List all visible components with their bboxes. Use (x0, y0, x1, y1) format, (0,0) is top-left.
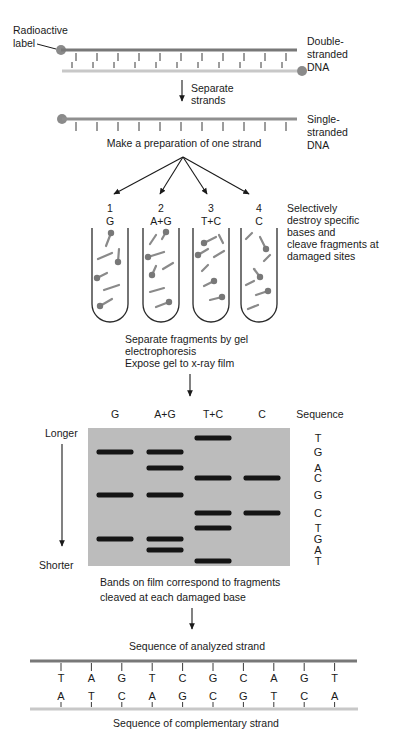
dna-fragment (98, 253, 112, 259)
single-stranded-dna-label-line2: stranded (307, 126, 348, 138)
gel-caption-line2: cleaved at each damaged base (100, 591, 246, 603)
make-preparation-label: Make a preparation of one strand (107, 137, 262, 149)
complementary-base: C (209, 690, 217, 702)
gel-sequence-letter: G (314, 489, 323, 501)
gel-band (97, 493, 134, 498)
fan-arrow-4 (183, 157, 249, 194)
tube-number: 4 (256, 202, 262, 214)
fan-arrow-3 (183, 157, 207, 194)
tube-base-label: A+G (150, 215, 171, 227)
fragment-label-dot (94, 275, 100, 281)
analyzed-base: A (88, 672, 96, 684)
double-strand-ticks (72, 53, 286, 68)
fragment-label-dot (163, 229, 169, 235)
fragment-label-dot (149, 272, 155, 278)
fragment-label-dot (115, 259, 121, 265)
dna-fragment (246, 281, 254, 285)
complementary-base: G (239, 690, 248, 702)
tube-number: 2 (158, 202, 164, 214)
electrophoresis-note-line1: Separate fragments by gel (125, 333, 248, 345)
gel-band (97, 450, 134, 455)
analyzed-base: A (270, 672, 278, 684)
fragment-label-dot (257, 274, 263, 280)
fragment-label-dot (97, 303, 103, 309)
analyzed-base: G (118, 672, 127, 684)
fragment-label-dot (265, 288, 271, 294)
dna-fragment (248, 305, 258, 309)
fragment-label-dot (211, 278, 217, 284)
tube-base-label: C (255, 215, 263, 227)
gel-sequence-letter: T (315, 432, 322, 444)
gel-longer-label: Longer (45, 427, 78, 439)
gel-lane-header: G (111, 408, 119, 420)
gel-sequence-header: Sequence (296, 408, 343, 420)
analyzed-base: T (331, 672, 338, 684)
diagram-root: Radioactive label Double- stranded DNA S… (0, 0, 395, 738)
gel-sequence-letter: C (314, 472, 322, 484)
gel-sequence-letter: C (314, 507, 322, 519)
complementary-base: C (118, 690, 126, 702)
fragment-label-dot (263, 246, 269, 252)
cleavage-note-line4: cleave fragments at (287, 238, 379, 250)
gel-sequence-letter: G (314, 446, 323, 458)
gel-band (244, 476, 281, 481)
tube-base-label: G (106, 215, 114, 227)
single-strand-ticks (76, 122, 286, 131)
complementary-base: C (300, 690, 308, 702)
gel-sequence-letter: T (315, 555, 322, 567)
complementary-base: A (149, 690, 157, 702)
gel-band (147, 450, 184, 455)
fan-arrow-1 (114, 157, 183, 194)
radioactive-label-line2: label (13, 37, 35, 49)
cleavage-note-line2: destroy specific (287, 214, 359, 226)
analyzed-base: C (179, 672, 187, 684)
dna-fragment (219, 235, 223, 243)
complementary-base: T (270, 690, 277, 702)
gel-caption-line1: Bands on film correspond to fragments (100, 576, 280, 588)
maxam-gilbert-sequencing-diagram: Radioactive label Double- stranded DNA S… (0, 0, 395, 738)
tube-number: 3 (208, 202, 214, 214)
gel-lane-header: A+G (154, 408, 175, 420)
gel-band (195, 559, 232, 564)
radioactive-label-leader-line (37, 44, 56, 49)
dna-fragment (104, 285, 119, 290)
dna-fragment (214, 251, 224, 257)
result-base-pairs: TAATGCTACGGCCGATGCTA (57, 663, 339, 707)
gel-shorter-label: Shorter (39, 559, 74, 571)
electrophoresis-note-line3: Expose gel to x-ray film (125, 357, 234, 369)
gel-band (244, 511, 281, 516)
double-stranded-dna-label-line2: stranded (307, 48, 348, 60)
analyzed-base: G (209, 672, 218, 684)
cleavage-note-line3: bases and (287, 226, 336, 238)
gel-lane-headers: GA+GT+CC (111, 408, 266, 420)
gel-band (195, 526, 232, 531)
gel-band (195, 436, 232, 441)
analyzed-strand-title: Sequence of analyzed strand (129, 640, 265, 652)
complementary-base: G (178, 690, 187, 702)
dna-fragment (264, 255, 270, 261)
electrophoresis-note-line2: electrophoresis (125, 345, 196, 357)
dna-fragment (246, 233, 252, 239)
reaction-tubes: 1G2A+G3T+C4C (92, 202, 277, 322)
gel-band (147, 537, 184, 542)
analyzed-base: T (149, 672, 156, 684)
fragment-label-dot (195, 252, 201, 258)
radioactive-label-line1: Radioactive (13, 24, 68, 36)
gel-band (195, 476, 232, 481)
gel-band (195, 511, 232, 516)
dna-fragment (163, 263, 173, 269)
gel-lane-header: T+C (203, 408, 224, 420)
fragment-label-dot (108, 230, 114, 236)
double-stranded-dna-label-line1: Double- (307, 35, 344, 47)
fragment-label-dot (219, 294, 225, 300)
complementary-base: A (57, 690, 65, 702)
complementary-base: T (88, 690, 95, 702)
tube-outline (143, 228, 179, 322)
gel-band (147, 466, 184, 471)
complementary-strand-title: Sequence of complementary strand (113, 717, 279, 729)
radioactive-label-dot-bottom-strand (297, 66, 307, 76)
separate-strands-label-line2: strands (191, 94, 225, 106)
fragment-label-dot (166, 299, 172, 305)
single-stranded-dna-label-line1: Single- (307, 113, 340, 125)
gel-band (147, 548, 184, 553)
